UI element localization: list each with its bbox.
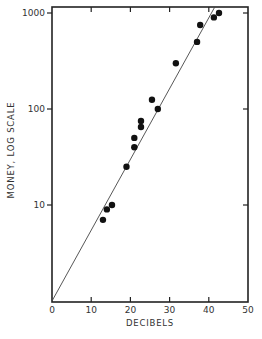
data-point [197, 22, 203, 28]
data-point [100, 217, 106, 223]
y-tick-label: 100 [28, 104, 45, 114]
axis-ticks [47, 7, 248, 302]
y-tick-label: 10 [34, 200, 46, 210]
data-point [216, 10, 222, 16]
y-axis-label: MONEY, LOG SCALE [6, 102, 16, 199]
x-tick-label: 10 [85, 305, 97, 315]
data-point [123, 164, 129, 170]
data-point [131, 135, 137, 141]
data-points [100, 10, 222, 223]
data-point [194, 39, 200, 45]
x-tick-label: 50 [242, 305, 254, 315]
x-tick-label: 20 [125, 305, 137, 315]
data-point [104, 206, 110, 212]
data-point [138, 118, 144, 124]
x-axis-label: DECIBELS [126, 318, 174, 328]
plot-frame [52, 7, 248, 302]
data-point [149, 96, 155, 102]
axis-tick-labels: 01020304050101001000 [22, 8, 254, 315]
fit-line [52, 7, 215, 301]
data-point [173, 60, 179, 66]
data-point [138, 124, 144, 130]
data-point [109, 202, 115, 208]
data-point [211, 14, 217, 20]
x-tick-label: 30 [164, 305, 176, 315]
data-point [155, 106, 161, 112]
x-tick-label: 40 [203, 305, 215, 315]
y-tick-label: 1000 [22, 8, 45, 18]
data-point [131, 144, 137, 150]
scatter-chart: 01020304050101001000 DECIBELS MONEY, LOG… [0, 0, 262, 339]
x-tick-label: 0 [49, 305, 55, 315]
